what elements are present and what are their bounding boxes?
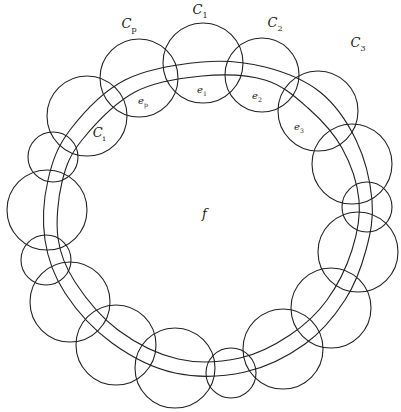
outer-band-curve <box>44 61 373 376</box>
edge-label-e3: e3 <box>294 121 304 134</box>
circle-label-c1: C1 <box>192 2 207 20</box>
cover-circle <box>47 76 127 156</box>
cover-circle <box>76 305 156 385</box>
face-label-f: f <box>201 206 209 221</box>
cover-circle <box>291 268 371 348</box>
circle-cover-diagram: C1C2C3CpCie1e2e3ep f <box>0 0 401 412</box>
cover-circle <box>243 309 323 389</box>
cover-circle <box>135 328 215 408</box>
circle-label-cp: Cp <box>121 16 136 34</box>
edge-label-ep: ep <box>138 95 148 109</box>
circle-label-ci: Ci <box>93 125 106 143</box>
annular-strip <box>44 61 373 376</box>
inner-band-curve <box>57 75 359 362</box>
edge-label-e1: e1 <box>197 84 207 97</box>
cover-circle <box>278 71 358 151</box>
cover-circle <box>312 124 392 204</box>
circle-label-c3: C3 <box>350 35 365 53</box>
edge-label-e2: e2 <box>252 90 262 103</box>
diagram-labels: C1C2C3CpCie1e2e3ep <box>93 2 366 143</box>
cover-circle <box>342 182 392 232</box>
circle-label-c2: C2 <box>267 15 282 33</box>
